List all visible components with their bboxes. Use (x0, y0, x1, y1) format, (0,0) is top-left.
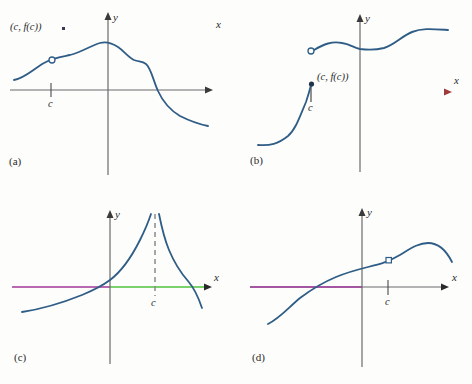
curve-b-lower (258, 85, 311, 145)
panel-c-tag: (c) (14, 352, 26, 363)
y-axis-label: y (115, 209, 120, 220)
panel-d-plot (236, 192, 472, 384)
curve-c-right (159, 214, 202, 308)
x-axis-label: x (216, 19, 221, 30)
x-axis-label: x (452, 272, 457, 283)
panel-b-plot (236, 0, 472, 192)
y-axis-arrowhead-icon (357, 14, 364, 22)
panel-d-tag: (d) (252, 352, 265, 363)
point-label: (c, f(c)) (10, 22, 41, 33)
x-axis-arrowhead-icon (441, 284, 449, 291)
y-axis-arrowhead-icon (107, 210, 114, 218)
open-circle-marker (308, 48, 314, 54)
panel-a-tag: (a) (9, 156, 21, 167)
panel-c: x y c (c) (0, 192, 236, 384)
c-tick-label: c (385, 297, 390, 308)
panel-a: x y c (c, f(c)) (a) (0, 0, 236, 192)
x-axis-arrowhead-icon (204, 284, 212, 291)
curve-c-left (22, 214, 151, 312)
figure-container: x y c (c, f(c)) (a) (0, 0, 472, 384)
panel-b: x y c (c, f(c)) (b) (236, 0, 472, 192)
panel-d: x y c (d) (236, 192, 472, 384)
c-tick-label: c (151, 298, 156, 309)
x-axis-arrowhead-icon (444, 89, 452, 96)
x-axis-arrowhead-icon (205, 87, 213, 94)
x-axis-label: x (454, 75, 459, 86)
y-axis-label: y (113, 12, 118, 23)
panel-c-plot (0, 192, 236, 384)
panel-b-tag: (b) (250, 155, 263, 166)
curve-b-upper (314, 29, 448, 50)
curve-d (268, 243, 452, 324)
y-axis-arrowhead-icon (359, 208, 366, 216)
open-circle-marker (49, 57, 55, 63)
x-axis-label: x (214, 272, 219, 283)
c-tick-label: c (48, 99, 53, 110)
c-tick-label: c (308, 103, 313, 114)
open-circle-marker (386, 258, 391, 263)
y-axis-label: y (367, 207, 372, 218)
point-label: (c, f(c)) (317, 72, 348, 83)
filled-dot-marker (309, 81, 314, 86)
y-axis-label: y (365, 13, 370, 24)
curve-a (14, 42, 208, 126)
y-axis-arrowhead-icon (105, 12, 112, 20)
point-label-marker-icon (62, 27, 65, 30)
